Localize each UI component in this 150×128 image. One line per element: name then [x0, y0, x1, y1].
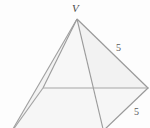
vertex-label-v: V — [72, 3, 79, 14]
geometry-figure: V 5 5 — [0, 0, 150, 128]
edge-length-label-base-right: 5 — [134, 107, 139, 117]
edge-length-label-lateral-right: 5 — [116, 43, 121, 53]
pyramid-diagram-svg — [0, 0, 150, 128]
